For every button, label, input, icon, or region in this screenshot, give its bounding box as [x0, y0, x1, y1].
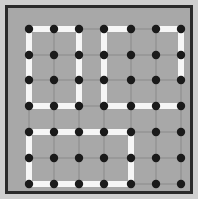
grid-svg — [16, 16, 198, 199]
node-dot-c0-r0 — [25, 25, 33, 33]
node-dot-c2-r6 — [75, 180, 83, 188]
node-dot-c3-r3 — [100, 102, 108, 110]
grid-plot-area — [16, 16, 198, 199]
node-dot-c5-r0 — [152, 25, 160, 33]
node-dot-c2-r5 — [75, 154, 83, 162]
node-dot-c3-r4 — [100, 128, 108, 136]
node-dot-c1-r3 — [50, 102, 58, 110]
node-dot-c4-r5 — [127, 154, 135, 162]
node-dot-c5-r4 — [152, 128, 160, 136]
node-dot-c1-r2 — [50, 76, 58, 84]
node-dot-c1-r6 — [50, 180, 58, 188]
node-dot-c0-r2 — [25, 76, 33, 84]
node-dot-c4-r1 — [127, 51, 135, 59]
figure-container — [0, 0, 198, 199]
node-dot-c3-r1 — [100, 51, 108, 59]
node-dot-c6-r0 — [177, 25, 185, 33]
node-dot-c2-r4 — [75, 128, 83, 136]
node-dot-c3-r6 — [100, 180, 108, 188]
node-dot-c5-r5 — [152, 154, 160, 162]
node-dot-c0-r5 — [25, 154, 33, 162]
node-dot-c1-r0 — [50, 25, 58, 33]
node-dot-c4-r2 — [127, 76, 135, 84]
node-dot-c4-r3 — [127, 102, 135, 110]
node-dot-c4-r6 — [127, 180, 135, 188]
node-dot-c6-r2 — [177, 76, 185, 84]
node-dot-c5-r3 — [152, 102, 160, 110]
node-dot-c6-r4 — [177, 128, 185, 136]
figure-frame — [5, 5, 193, 194]
node-dot-c5-r6 — [152, 180, 160, 188]
node-dot-c6-r1 — [177, 51, 185, 59]
node-dot-c6-r5 — [177, 154, 185, 162]
node-dot-c1-r1 — [50, 51, 58, 59]
node-dot-c1-r4 — [50, 128, 58, 136]
node-dot-c0-r3 — [25, 102, 33, 110]
node-dot-c2-r2 — [75, 76, 83, 84]
node-dot-c3-r2 — [100, 76, 108, 84]
node-dot-c0-r1 — [25, 51, 33, 59]
node-dot-c6-r6 — [177, 180, 185, 188]
node-dot-c5-r2 — [152, 76, 160, 84]
node-dot-c2-r3 — [75, 102, 83, 110]
node-dot-c2-r1 — [75, 51, 83, 59]
node-dot-c6-r3 — [177, 102, 185, 110]
node-dot-c4-r4 — [127, 128, 135, 136]
node-dot-c2-r0 — [75, 25, 83, 33]
node-dot-c5-r1 — [152, 51, 160, 59]
node-dot-c0-r6 — [25, 180, 33, 188]
node-dot-c3-r5 — [100, 154, 108, 162]
node-dot-c1-r5 — [50, 154, 58, 162]
node-dot-c3-r0 — [100, 25, 108, 33]
node-dot-c4-r0 — [127, 25, 135, 33]
node-dot-c0-r4 — [25, 128, 33, 136]
